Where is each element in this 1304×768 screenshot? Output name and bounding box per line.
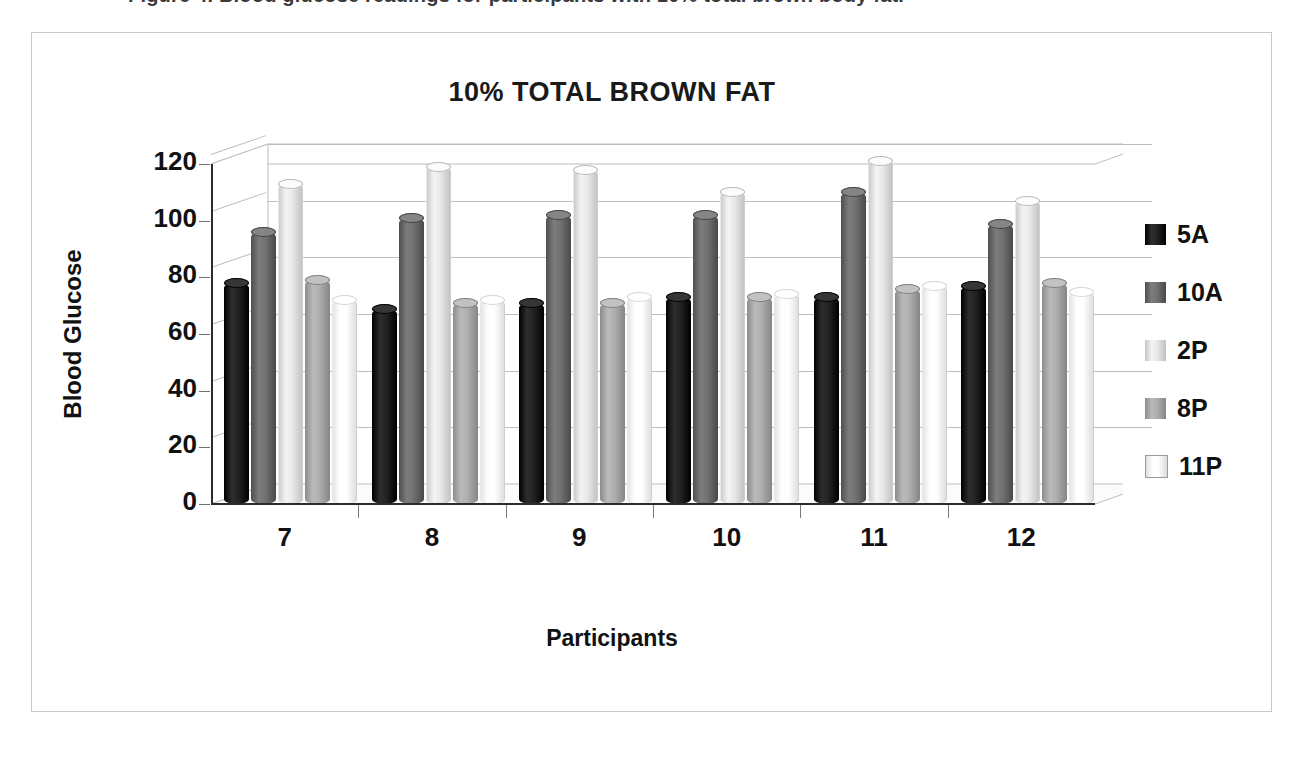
bar-top-cap bbox=[1015, 196, 1040, 206]
bar-top-cap bbox=[573, 165, 598, 175]
bar-top-cap bbox=[1069, 287, 1094, 297]
bar bbox=[372, 309, 397, 505]
bar bbox=[251, 232, 276, 504]
y-tick-mark bbox=[199, 391, 210, 392]
bar bbox=[426, 167, 451, 504]
bar bbox=[868, 161, 893, 504]
legend-label: 11P bbox=[1179, 454, 1222, 479]
bar-top-cap bbox=[666, 292, 691, 302]
bar bbox=[1042, 283, 1067, 504]
bar-top-cap bbox=[399, 213, 424, 223]
bar bbox=[399, 218, 424, 504]
bar bbox=[278, 184, 303, 504]
bar-top-cap bbox=[480, 295, 505, 305]
legend-swatch-8p-icon bbox=[1145, 398, 1166, 419]
bar bbox=[666, 297, 691, 504]
x-axis-title: Participants bbox=[212, 625, 1012, 652]
bar-top-cap bbox=[895, 284, 920, 294]
bar bbox=[988, 224, 1013, 505]
x-axis-separator bbox=[653, 505, 654, 518]
y-tick-label: 100 bbox=[111, 203, 197, 234]
x-axis-separator bbox=[800, 505, 801, 518]
bar-top-cap bbox=[372, 304, 397, 314]
y-axis-line bbox=[211, 164, 213, 504]
bar bbox=[627, 297, 652, 504]
bar bbox=[573, 170, 598, 504]
bar-top-cap bbox=[720, 187, 745, 197]
bar-top-cap bbox=[305, 275, 330, 285]
bar bbox=[961, 286, 986, 504]
bar bbox=[693, 215, 718, 504]
bar-top-cap bbox=[747, 292, 772, 302]
x-tick-label: 11 bbox=[800, 522, 947, 553]
bar-top-cap bbox=[546, 210, 571, 220]
bar-top-cap bbox=[774, 289, 799, 299]
plot-inner: 789101112 bbox=[211, 132, 1123, 567]
legend-label: 8P bbox=[1177, 396, 1208, 421]
gridline-connector bbox=[211, 192, 266, 212]
bar-top-cap bbox=[519, 298, 544, 308]
legend-item[interactable]: 5A bbox=[1145, 205, 1275, 263]
legend-item[interactable]: 8P bbox=[1145, 379, 1275, 437]
legend-item[interactable]: 2P bbox=[1145, 321, 1275, 379]
y-tick-label: 120 bbox=[111, 146, 197, 177]
bar-top-cap bbox=[332, 295, 357, 305]
bar bbox=[480, 300, 505, 504]
bar-top-cap bbox=[426, 162, 451, 172]
bar bbox=[453, 303, 478, 504]
bar bbox=[922, 286, 947, 504]
y-axis-ticks: 120100806040200 bbox=[111, 132, 197, 567]
x-axis-separator bbox=[358, 505, 359, 518]
legend-swatch-10a-icon bbox=[1145, 282, 1166, 303]
bar-top-cap bbox=[961, 281, 986, 291]
x-tick-label: 7 bbox=[211, 522, 358, 553]
bar-top-cap bbox=[693, 210, 718, 220]
bar bbox=[720, 192, 745, 504]
y-tick-mark bbox=[199, 504, 210, 505]
legend-swatch-5a-icon bbox=[1145, 224, 1166, 245]
y-tick-mark bbox=[199, 221, 210, 222]
x-axis-separator bbox=[948, 505, 949, 518]
x-tick-label: 12 bbox=[948, 522, 1095, 553]
y-tick-mark bbox=[199, 447, 210, 448]
gridline bbox=[268, 144, 1152, 145]
y-tick-label: 0 bbox=[111, 486, 197, 517]
chart-figure-frame: 10% TOTAL BROWN FAT Blood Glucose Partic… bbox=[31, 32, 1272, 712]
x-tick-label: 8 bbox=[358, 522, 505, 553]
y-tick-mark bbox=[199, 277, 210, 278]
bar-top-cap bbox=[224, 278, 249, 288]
chart-title: 10% TOTAL BROWN FAT bbox=[32, 77, 1192, 108]
legend-item[interactable]: 10A bbox=[1145, 263, 1275, 321]
bar bbox=[895, 289, 920, 504]
y-tick-label: 80 bbox=[111, 259, 197, 290]
bar-top-cap bbox=[278, 179, 303, 189]
x-tick-label: 9 bbox=[506, 522, 653, 553]
y-tick-label: 60 bbox=[111, 316, 197, 347]
bar bbox=[600, 303, 625, 504]
y-axis-title: Blood Glucose bbox=[59, 224, 87, 444]
legend-label: 5A bbox=[1177, 222, 1209, 247]
legend-swatch-11p-icon bbox=[1145, 455, 1168, 478]
bar-top-cap bbox=[922, 281, 947, 291]
bar-top-cap bbox=[453, 298, 478, 308]
bar-top-cap bbox=[988, 219, 1013, 229]
bar-top-cap bbox=[1042, 278, 1067, 288]
bar-top-cap bbox=[251, 227, 276, 237]
bar bbox=[305, 280, 330, 504]
bar bbox=[1069, 292, 1094, 505]
legend-item[interactable]: 11P bbox=[1145, 437, 1275, 495]
bar-top-cap bbox=[627, 292, 652, 302]
legend-label: 10A bbox=[1177, 280, 1223, 305]
bar-top-cap bbox=[814, 292, 839, 302]
bar bbox=[747, 297, 772, 504]
legend-swatch-2p-icon bbox=[1145, 340, 1166, 361]
bar bbox=[332, 300, 357, 504]
bar-top-cap bbox=[868, 156, 893, 166]
caption-strip: Figure 4. Blood glucose readings for par… bbox=[0, 0, 1304, 14]
bar bbox=[519, 303, 544, 504]
bar-top-cap bbox=[841, 187, 866, 197]
bar bbox=[1015, 201, 1040, 504]
bar bbox=[224, 283, 249, 504]
legend-label: 2P bbox=[1177, 338, 1208, 363]
y-tick-label: 20 bbox=[111, 429, 197, 460]
